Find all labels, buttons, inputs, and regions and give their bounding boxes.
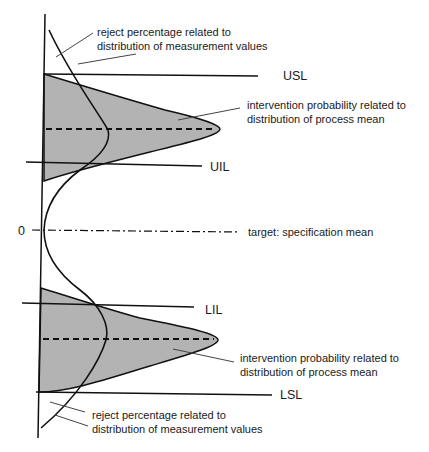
usl-line bbox=[44, 74, 258, 76]
leader-line bbox=[56, 33, 93, 57]
control-limit-diagram: reject percentage related to distributio… bbox=[0, 0, 429, 452]
lower-intervention-label-2: distribution of process mean bbox=[240, 366, 378, 378]
leader-line bbox=[55, 415, 88, 426]
bottom-reject-label-2: distribution of measurement values bbox=[92, 423, 263, 435]
upper-intervention-label-1: intervention probability related to bbox=[247, 99, 406, 111]
lil-label: LIL bbox=[205, 303, 222, 317]
axis-zero-label: 0 bbox=[18, 224, 25, 238]
leader-line bbox=[78, 54, 136, 64]
top-reject-label-1: reject percentage related to bbox=[97, 26, 231, 38]
lsl-line bbox=[36, 392, 272, 395]
lsl-label: LSL bbox=[280, 388, 302, 402]
leader-line bbox=[178, 108, 240, 120]
upper-intervention-label-2: distribution of process mean bbox=[247, 113, 385, 125]
top-reject-label-2: distribution of measurement values bbox=[97, 40, 268, 52]
bottom-reject-label-1: reject percentage related to bbox=[92, 409, 226, 421]
target-line bbox=[32, 230, 240, 232]
target-label: target: specification mean bbox=[248, 226, 373, 238]
lower-intervention-label-1: intervention probability related to bbox=[240, 352, 399, 364]
uil-label: UIL bbox=[210, 160, 230, 174]
usl-label: USL bbox=[283, 69, 307, 83]
